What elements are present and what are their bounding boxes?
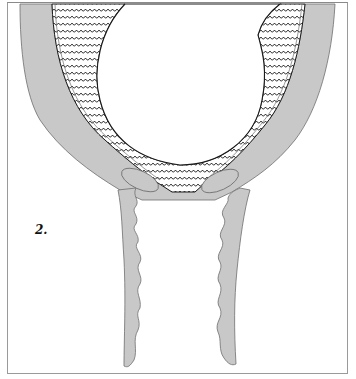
right-canal — [217, 188, 250, 365]
figure-label: 2. — [35, 223, 48, 237]
left-canal — [118, 188, 141, 367]
anatomical-diagram — [0, 0, 356, 379]
